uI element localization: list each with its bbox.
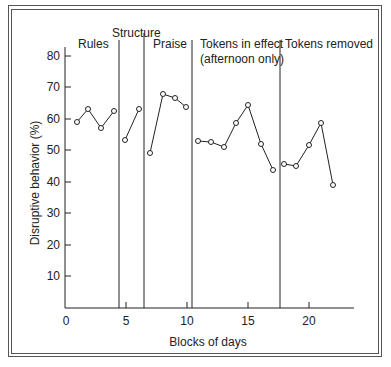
xtick-label: 15 xyxy=(241,314,255,328)
series-tokens-removed xyxy=(284,123,333,185)
xtick-label: 10 xyxy=(180,314,194,328)
series-structure xyxy=(125,109,139,140)
phase-label-rules: Rules xyxy=(78,37,109,51)
series-tokens xyxy=(198,105,273,170)
ytick-label: 60 xyxy=(47,112,61,126)
phase-label-tokens-note: (afternoon only) xyxy=(200,52,284,66)
ytick-label: 30 xyxy=(47,206,61,220)
xtick-label: 5 xyxy=(123,314,130,328)
ytick-label: 40 xyxy=(47,175,61,189)
y-tick-labels: 80 70 60 50 40 30 20 10 xyxy=(47,49,61,283)
data-points xyxy=(75,92,336,188)
phase-lines xyxy=(119,33,280,308)
xtick-label: 20 xyxy=(302,314,316,328)
ytick-label: 80 xyxy=(47,49,61,63)
xtick-label: 0 xyxy=(63,314,70,328)
ytick-label: 70 xyxy=(47,80,61,94)
phase-label-praise: Praise xyxy=(153,37,187,51)
x-axis-title: Blocks of days xyxy=(169,335,246,349)
chart: 80 70 60 50 40 30 20 10 0 5 10 15 20 Blo… xyxy=(0,0,391,367)
ytick-label: 20 xyxy=(47,238,61,252)
phase-label-tokens: Tokens in effect xyxy=(200,37,284,51)
y-axis-title: Disruptive behavior (%) xyxy=(28,121,42,246)
series xyxy=(77,94,333,185)
ytick-label: 10 xyxy=(47,269,61,283)
x-tick-labels: 0 5 10 15 20 xyxy=(63,314,316,328)
y-ticks xyxy=(65,56,71,276)
series-rules xyxy=(77,109,114,128)
x-ticks xyxy=(126,302,309,308)
ytick-label: 50 xyxy=(47,143,61,157)
series-praise xyxy=(150,94,186,153)
phase-label-tokens-removed: Tokens removed xyxy=(285,37,373,51)
